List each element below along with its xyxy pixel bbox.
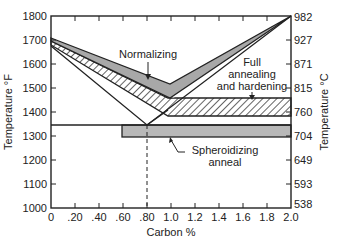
svg-text:593: 593 [294, 178, 312, 190]
y-right-axis-label: Temperature °C [318, 73, 330, 150]
svg-text:1600: 1600 [23, 58, 47, 70]
y-left-tick-labels: 1000 1100 1200 1300 1400 1500 1600 1700 … [23, 10, 47, 214]
svg-text:.60: .60 [115, 211, 130, 223]
svg-text:1.6: 1.6 [235, 211, 250, 223]
svg-text:1100: 1100 [23, 178, 47, 190]
svg-text:1500: 1500 [23, 82, 47, 94]
svg-text:1.8: 1.8 [259, 211, 274, 223]
svg-text:1.2: 1.2 [187, 211, 202, 223]
svg-text:1700: 1700 [23, 34, 47, 46]
svg-text:1300: 1300 [23, 130, 47, 142]
svg-text:538: 538 [294, 198, 312, 210]
x-tick-labels: 0 .20 .40 .60 .80 1.0 1.2 1.4 1.6 1.8 2.… [48, 211, 299, 223]
normalizing-label: Normalizing [119, 48, 177, 60]
svg-text:1800: 1800 [23, 10, 47, 22]
svg-text:927: 927 [294, 34, 312, 46]
full-annealing-label-2: annealing [228, 68, 276, 80]
svg-text:815: 815 [294, 82, 312, 94]
svg-text:.20: .20 [67, 211, 82, 223]
full-annealing-label-1: Full [243, 56, 261, 68]
y-left-axis-label: Temperature °F [2, 74, 14, 150]
heat-treatment-chart: 0 .20 .40 .60 .80 1.0 1.2 1.4 1.6 1.8 2.… [0, 0, 338, 250]
svg-text:760: 760 [294, 106, 312, 118]
svg-text:704: 704 [294, 130, 312, 142]
y-right-tick-labels: 538 593 649 704 760 815 871 927 982 [294, 11, 312, 210]
svg-text:2.0: 2.0 [283, 211, 298, 223]
svg-text:.40: .40 [91, 211, 106, 223]
svg-text:649: 649 [294, 154, 312, 166]
svg-text:1.4: 1.4 [211, 211, 226, 223]
x-axis-label: Carbon % [147, 226, 196, 238]
svg-text:1400: 1400 [23, 106, 47, 118]
spheroidizing-label-1: Spheroidizing [192, 144, 259, 156]
spheroidizing-label-2: anneal [208, 156, 241, 168]
svg-text:982: 982 [294, 11, 312, 23]
svg-text:1000: 1000 [23, 202, 47, 214]
svg-text:.80: .80 [139, 211, 154, 223]
svg-text:1.0: 1.0 [163, 211, 178, 223]
svg-text:0: 0 [48, 211, 54, 223]
svg-text:1200: 1200 [23, 154, 47, 166]
svg-text:871: 871 [294, 58, 312, 70]
full-annealing-label-3: and hardening [217, 80, 287, 92]
